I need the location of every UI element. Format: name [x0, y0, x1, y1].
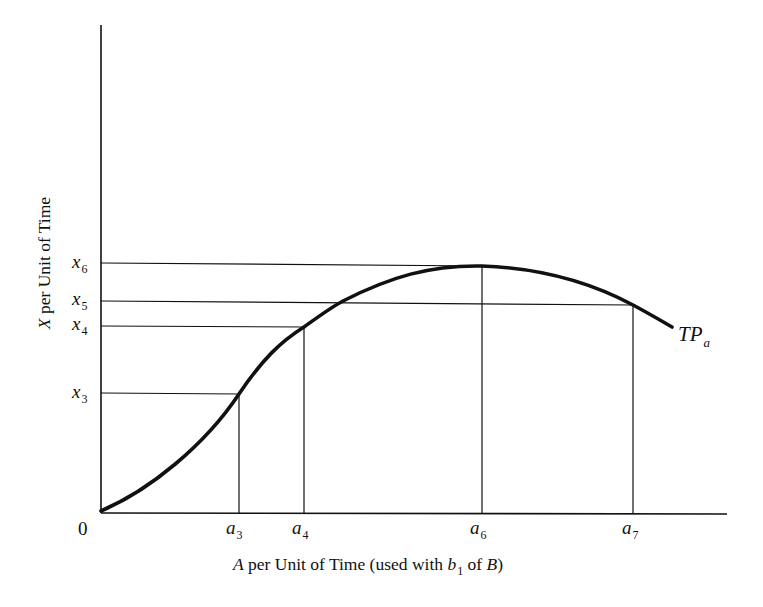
x-axis-title: A per Unit of Time (used with b1 of B): [233, 556, 503, 574]
x5-guide-line: [101, 301, 634, 305]
y-tick-x3: x3: [72, 382, 87, 401]
y-tick-x6: x6: [72, 252, 87, 271]
x-tick-a6: a6: [470, 518, 487, 537]
x-title-bvar: b: [447, 554, 456, 574]
tick-sub: 6: [481, 528, 487, 542]
tick-var: x: [72, 381, 80, 402]
tick-sub: 3: [81, 392, 87, 406]
tick-sub: 4: [81, 324, 87, 338]
tick-sub: 6: [81, 262, 87, 276]
tick-sub: 3: [237, 528, 243, 542]
curve-label-sub: a: [704, 335, 711, 350]
tick-var: a: [292, 517, 302, 538]
tick-var: x: [72, 288, 80, 309]
tick-sub: 4: [303, 528, 309, 542]
tick-sub: 5: [81, 299, 87, 313]
x-title-close: ): [497, 554, 503, 574]
tick-var: a: [622, 517, 632, 538]
x-title-bsub: 1: [457, 564, 463, 578]
tick-sub: 7: [633, 528, 639, 542]
tick-var: x: [72, 251, 80, 272]
y-axis-title: X per Unit of Time: [34, 197, 55, 329]
x-tick-a3: a3: [226, 518, 243, 537]
x6-guide-line: [101, 263, 482, 266]
x-title-text2: of: [463, 554, 486, 574]
y-tick-x5: x5: [72, 289, 87, 308]
tick-var: x: [72, 313, 80, 334]
y-title-text: per Unit of Time: [34, 197, 54, 319]
x-title-var: A: [233, 554, 244, 574]
x-title-text: per Unit of Time (used with: [244, 554, 448, 574]
tick-var: a: [226, 517, 236, 538]
x-title-Bvar: B: [486, 554, 497, 574]
diagram-canvas: [0, 0, 763, 607]
y-title-var: X: [34, 318, 54, 329]
tick-var: a: [470, 517, 480, 538]
y-tick-x4: x4: [72, 314, 87, 333]
curve-label-tpa: TPa: [678, 324, 710, 345]
x3-guide-line: [101, 393, 239, 394]
origin-label: 0: [78, 519, 88, 538]
x-tick-a7: a7: [622, 518, 639, 537]
x-tick-a4: a4: [292, 518, 309, 537]
curve-label-main: TP: [678, 322, 703, 346]
x4-guide-line: [101, 326, 304, 327]
